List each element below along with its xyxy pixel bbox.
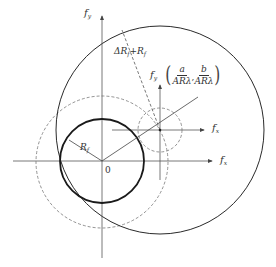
center-vector-line [102, 97, 198, 161]
fy-axis-label: fy [84, 8, 91, 19]
origin-label: 0 [105, 166, 111, 175]
fx-axis-label: fx [220, 155, 227, 166]
shifted-center-point [159, 129, 162, 132]
fy-prime-axis-label: fy [150, 70, 157, 81]
radius-sum-label: ΔRf+Rf [114, 47, 146, 57]
diagram: fy fx fy fx 0 Rf ΔRf+Rf (aARλ,bARλ) [0, 0, 276, 267]
fx-prime-axis-label: fx [212, 123, 219, 134]
shifted-center-coordinate: (aARλ,bARλ) [164, 64, 222, 86]
diagram-canvas [0, 0, 276, 267]
radius-rf-label: Rf [80, 143, 89, 153]
